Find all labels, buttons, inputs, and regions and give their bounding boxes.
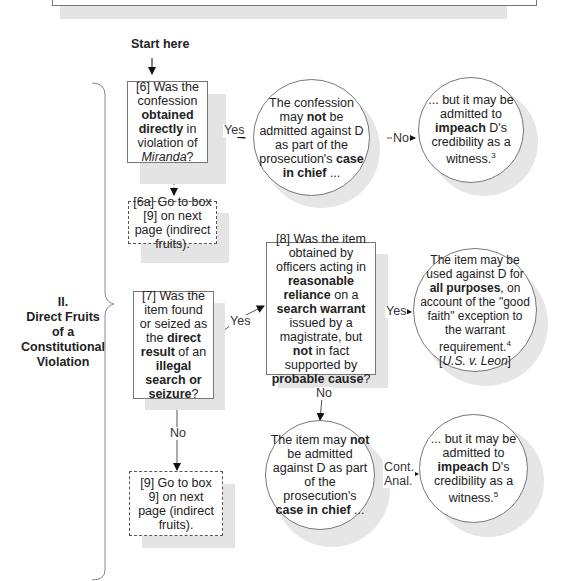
edge-label-q7-no: No: [169, 427, 187, 440]
goto-box-6a[interactable]: [6a] Go to box [9] on next page (indirec…: [128, 201, 217, 244]
question-8-box[interactable]: [8] Was the item obtained by officers ac…: [266, 242, 376, 375]
outcome-good-faith[interactable]: The item may be used against D for all p…: [413, 248, 537, 372]
question-6-box[interactable]: [6] Was the confession obtained directly…: [127, 81, 208, 163]
edge-label-q6-yes: Yes: [223, 124, 245, 137]
edge-label-cont-anal: Cont. Anal.: [383, 460, 415, 488]
edge-label-c6-no: No: [392, 132, 410, 145]
outcome-item-not-admitted[interactable]: The item may not be admitted against D a…: [265, 420, 375, 530]
outcome-confession-not-admitted[interactable]: The confession may not be admitted again…: [253, 79, 370, 196]
edge-label-q8-yes: Yes: [385, 305, 407, 318]
question-7-box[interactable]: [7] Was the item found or seized as the …: [133, 291, 214, 399]
edge-label-q7-yes: Yes: [229, 315, 251, 328]
outcome-item-impeach[interactable]: ... but it may be admitted to impeach D'…: [419, 414, 528, 523]
outcome-confession-impeach[interactable]: ... but it may be admitted to impeach D'…: [418, 77, 524, 183]
edge-label-q8-no: No: [315, 387, 333, 400]
goto-box-9[interactable]: [9] Go to box 9] on next page (indirect …: [129, 471, 223, 536]
